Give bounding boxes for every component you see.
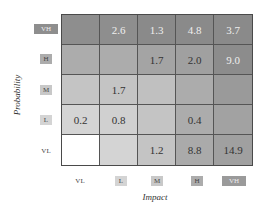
heatmap-cell: 4.8 xyxy=(176,15,214,45)
heatmap-cell xyxy=(176,75,214,105)
heatmap-cell: 3.7 xyxy=(214,15,252,45)
risk-heatmap-grid: 2.61.34.83.71.72.09.01.70.20.80.41.28.81… xyxy=(61,14,253,166)
heatmap-cell: 0.4 xyxy=(176,105,214,135)
heatmap-cell: 0.8 xyxy=(100,105,138,135)
heatmap-cell xyxy=(62,75,100,105)
x-axis-title: Impact xyxy=(143,192,168,202)
heatmap-cell xyxy=(138,105,176,135)
heatmap-cell xyxy=(214,75,252,105)
heatmap-cell xyxy=(62,15,100,45)
heatmap-cell: 2.6 xyxy=(100,15,138,45)
heatmap-cell: 9.0 xyxy=(214,45,252,75)
heatmap-cell: 1.7 xyxy=(138,45,176,75)
heatmap-cell xyxy=(100,135,138,165)
x-axis-label: VH xyxy=(222,176,246,186)
y-axis-label: L xyxy=(40,115,52,125)
heatmap-cell: 2.0 xyxy=(176,45,214,75)
heatmap-cell xyxy=(138,75,176,105)
x-axis-label: VL xyxy=(74,176,86,186)
heatmap-cell: 0.2 xyxy=(62,105,100,135)
x-axis-label: M xyxy=(151,176,163,186)
heatmap-cell xyxy=(100,45,138,75)
heatmap-cell: 1.3 xyxy=(138,15,176,45)
y-axis-title: Probability xyxy=(12,75,22,116)
heatmap-cell xyxy=(62,135,100,165)
y-axis-label: VL xyxy=(34,146,58,156)
heatmap-cell xyxy=(62,45,100,75)
heatmap-cell xyxy=(214,105,252,135)
heatmap-cell: 1.7 xyxy=(100,75,138,105)
y-axis-label: M xyxy=(40,85,52,95)
heatmap-cell: 14.9 xyxy=(214,135,252,165)
heatmap-cell: 8.8 xyxy=(176,135,214,165)
heatmap-cell: 1.2 xyxy=(138,135,176,165)
y-axis-label: H xyxy=(40,54,52,64)
x-axis-label: L xyxy=(115,176,127,186)
x-axis-label: H xyxy=(191,176,203,186)
y-axis-label: VH xyxy=(34,24,58,34)
